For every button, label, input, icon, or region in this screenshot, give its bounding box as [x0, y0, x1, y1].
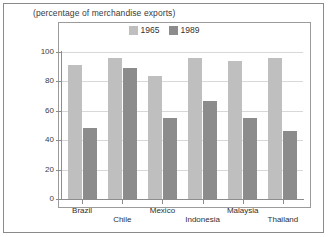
legend-label: 1965	[141, 26, 160, 35]
bar	[123, 68, 137, 199]
y-tick-label-wrap: 80	[30, 77, 54, 85]
y-tick-mark	[56, 111, 61, 112]
bar	[68, 65, 82, 199]
y-tick-label: 20	[32, 166, 54, 174]
y-tick-label: 80	[32, 77, 54, 85]
y-tick-label-wrap: 0	[30, 195, 54, 203]
bar-group	[228, 52, 257, 199]
y-tick-label-wrap: 20	[30, 166, 54, 174]
x-tick-mark	[82, 200, 83, 204]
y-tick-mark	[56, 52, 61, 53]
bar	[148, 76, 162, 199]
bar	[243, 118, 257, 199]
bar-group	[148, 52, 177, 199]
bar-group	[68, 52, 97, 199]
chart-subtitle: (percentage of merchandise exports)	[33, 8, 175, 18]
bar-group	[188, 52, 217, 199]
bar	[108, 58, 122, 199]
bar	[283, 131, 297, 199]
y-tick-label: 0	[32, 195, 54, 203]
x-tick-mark	[243, 200, 244, 204]
x-tick-label: Thailand	[255, 215, 311, 224]
y-tick-label-wrap: 100	[30, 48, 54, 56]
legend-label: 1989	[181, 26, 200, 35]
y-tick-label-wrap: 40	[30, 136, 54, 144]
x-tick-label: Chile	[94, 215, 150, 224]
legend-swatch-1965	[129, 26, 138, 35]
y-tick-label: 40	[32, 136, 54, 144]
y-tick-mark	[56, 199, 61, 200]
legend-item: 1989	[169, 26, 200, 35]
y-tick-label-wrap: 60	[30, 107, 54, 115]
y-tick-label: 60	[32, 107, 54, 115]
bar-group	[108, 52, 137, 199]
x-tick-mark	[283, 200, 284, 204]
bar	[163, 118, 177, 199]
y-tick-mark	[56, 170, 61, 171]
x-tick-mark	[162, 200, 163, 204]
bar	[268, 58, 282, 199]
bar	[83, 128, 97, 199]
x-tick-label: Indonesia	[175, 215, 231, 224]
chart-legend: 19651989	[0, 24, 328, 36]
x-tick-mark	[203, 200, 204, 204]
bar	[203, 101, 217, 199]
plot-area	[62, 52, 303, 199]
chart-figure: (percentage of merchandise exports) 1965…	[0, 0, 328, 237]
x-tick-label: Brazil	[54, 206, 110, 215]
bar	[228, 61, 242, 199]
legend-swatch-1989	[169, 26, 178, 35]
x-tick-label: Malaysia	[215, 206, 271, 215]
x-tick-mark	[122, 200, 123, 204]
x-axis-line	[61, 199, 304, 200]
legend-item: 1965	[129, 26, 160, 35]
y-tick-label: 100	[32, 48, 54, 56]
x-tick-label: Mexico	[134, 206, 190, 215]
y-tick-mark	[56, 81, 61, 82]
bar-group	[268, 52, 297, 199]
bar	[188, 58, 202, 199]
y-tick-mark	[56, 140, 61, 141]
